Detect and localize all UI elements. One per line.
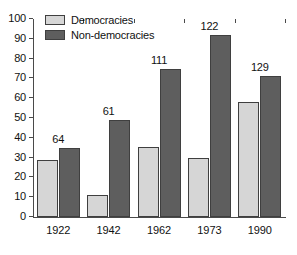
y-axis-tick-label: 0 xyxy=(20,210,26,222)
bar-1922-democracies xyxy=(37,160,58,217)
bar-1973-non-democracies xyxy=(210,35,231,217)
y-axis-tick: 30 xyxy=(29,157,33,158)
plot-area: 0102030405060708090100 19221942196219731… xyxy=(33,19,285,217)
bar-1942-non-democracies xyxy=(109,120,130,217)
legend-swatch-democracies-icon xyxy=(45,15,65,25)
group-total-1942: 61 xyxy=(103,105,115,117)
bar-1990-democracies xyxy=(238,102,259,217)
y-axis-tick: 20 xyxy=(29,176,33,177)
y-axis-tick: 10 xyxy=(29,196,33,197)
bar-1990-non-democracies xyxy=(260,76,281,217)
y-axis-tick: 0 xyxy=(29,216,33,217)
y-axis-tick: 60 xyxy=(29,97,33,98)
x-axis-label-1962: 1962 xyxy=(147,224,171,236)
bar-1973-democracies xyxy=(188,158,209,217)
bar-1942-democracies xyxy=(87,195,108,217)
x-axis-label-1942: 1942 xyxy=(97,224,121,236)
chart-legend: Democracies Non-democracies xyxy=(45,13,154,43)
y-axis-tick-label: 100 xyxy=(8,12,26,24)
group-total-1990: 129 xyxy=(251,61,269,73)
x-axis-tick xyxy=(235,19,236,23)
y-axis-tick-label: 90 xyxy=(14,32,26,44)
y-axis-tick: 70 xyxy=(29,77,33,78)
x-axis-tick xyxy=(285,19,286,23)
y-axis-tick-label: 60 xyxy=(14,91,26,103)
y-axis-tick: 40 xyxy=(29,137,33,138)
y-axis-tick-label: 10 xyxy=(14,190,26,202)
y-axis-tick: 50 xyxy=(29,117,33,118)
bar-1962-democracies xyxy=(138,147,159,217)
legend-item-democracies: Democracies xyxy=(45,13,154,26)
x-axis-tick xyxy=(33,19,34,23)
legend-swatch-nondemocracies-icon xyxy=(45,30,65,40)
legend-item-nondemocracies: Non-democracies xyxy=(45,28,154,41)
bar-1922-non-democracies xyxy=(59,148,80,217)
x-axis-label-1990: 1990 xyxy=(248,224,272,236)
bar-1962-non-democracies xyxy=(160,69,181,218)
y-axis-tick-label: 20 xyxy=(14,170,26,182)
y-axis-tick-label: 30 xyxy=(14,151,26,163)
y-axis-tick-label: 70 xyxy=(14,71,26,83)
x-axis-label-1922: 1922 xyxy=(46,224,70,236)
group-total-1922: 64 xyxy=(52,133,64,145)
y-axis-tick: 90 xyxy=(29,38,33,39)
legend-label-democracies: Democracies xyxy=(71,14,133,26)
group-total-1973: 122 xyxy=(201,20,219,32)
bar-chart: 0102030405060708090100 19221942196219731… xyxy=(0,0,297,255)
x-axis-tick xyxy=(184,19,185,23)
group-total-1962: 111 xyxy=(151,54,167,66)
legend-label-nondemocracies: Non-democracies xyxy=(71,29,154,41)
y-axis-tick-label: 50 xyxy=(14,111,26,123)
x-axis-label-1973: 1973 xyxy=(197,224,221,236)
x-axis-line xyxy=(33,217,286,218)
y-axis-tick-label: 40 xyxy=(14,131,26,143)
y-axis-tick: 80 xyxy=(29,58,33,59)
y-axis-tick-label: 80 xyxy=(14,52,26,64)
